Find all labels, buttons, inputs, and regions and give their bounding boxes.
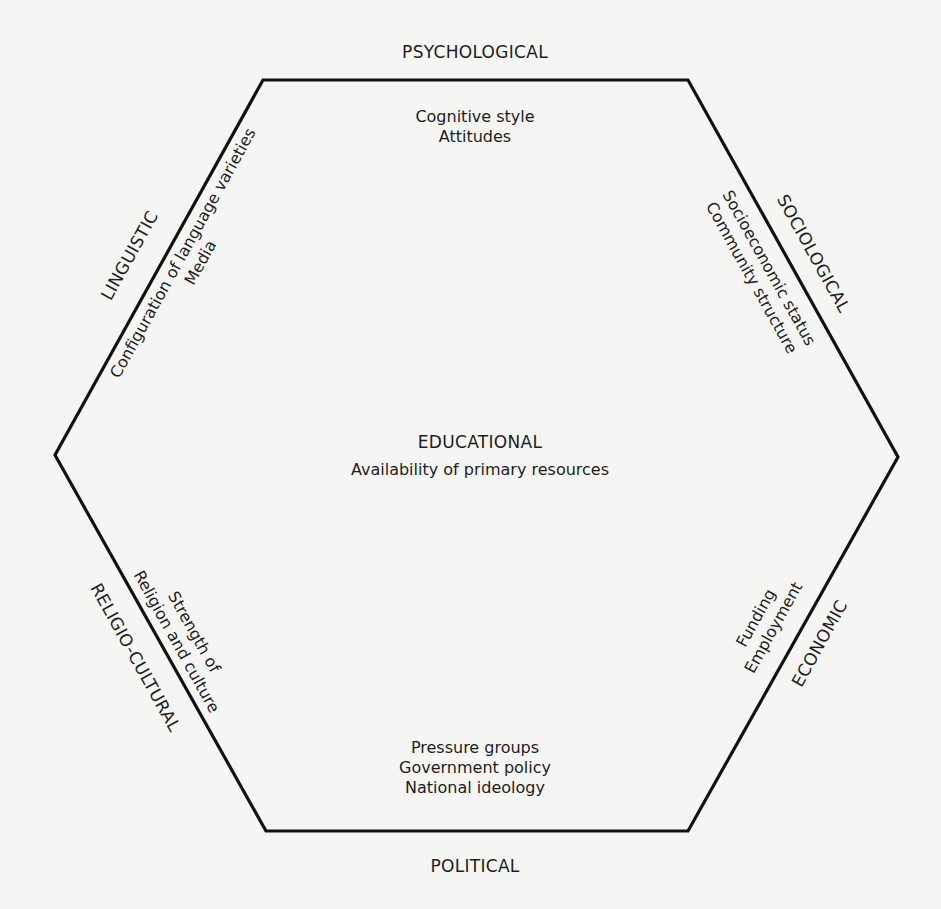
center-heading-educational: EDUCATIONAL	[330, 432, 630, 453]
factor-items-political: Pressure groups Government policy Nation…	[370, 738, 580, 798]
factor-item: Attitudes	[370, 127, 580, 147]
factor-heading-political: POLITICAL	[370, 856, 580, 877]
factor-item: Cognitive style	[370, 107, 580, 127]
factor-item: Government policy	[370, 758, 580, 778]
factor-items-psychological: Cognitive style Attitudes	[370, 107, 580, 147]
center-item: Availability of primary resources	[280, 460, 680, 480]
factor-item: Pressure groups	[370, 738, 580, 758]
factor-heading-psychological: PSYCHOLOGICAL	[370, 42, 580, 63]
factor-item: National ideology	[370, 778, 580, 798]
